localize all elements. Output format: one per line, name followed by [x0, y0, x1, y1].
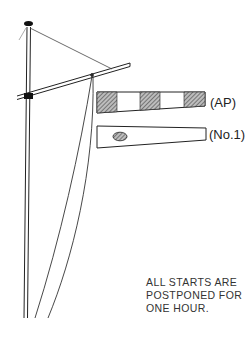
caption-line-3: ONE HOUR. [146, 302, 242, 315]
caption-line-2: POSTPONED FOR [146, 289, 242, 302]
mast-top-cap-icon [24, 21, 33, 26]
oval-mark-icon [113, 132, 127, 141]
ap-flag [97, 92, 205, 113]
mast [19, 21, 33, 318]
no1-flag-label: (No.1) [209, 127, 245, 142]
no1-flag [97, 126, 206, 148]
caption-line-1: ALL STARTS ARE [146, 276, 242, 289]
ap-flag-label: (AP) [210, 95, 236, 110]
caption: ALL STARTS ARE POSTPONED FOR ONE HOUR. [146, 276, 242, 315]
stay-line [30, 28, 112, 69]
halyards [35, 74, 93, 318]
